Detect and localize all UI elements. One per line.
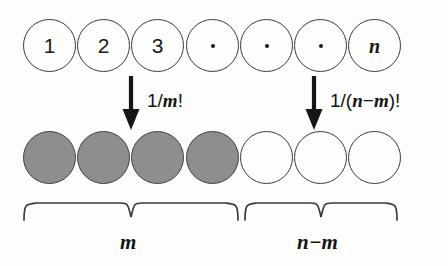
arrow-left-caption: 1/m!: [147, 91, 183, 110]
ball-label: 2: [98, 35, 110, 56]
ball-top-ellipsis-1: [186, 19, 239, 72]
brace-right: [243, 199, 399, 221]
caption-var-m: m: [374, 90, 389, 111]
ball-label: n: [369, 36, 380, 56]
brace-left: [22, 199, 240, 221]
ball-top-ellipsis-2: [240, 19, 293, 72]
ball-top-1: 1: [23, 19, 76, 72]
center-dot-icon: [265, 44, 269, 48]
brace-right-label: n−m: [297, 232, 338, 253]
ball-top-ellipsis-3: [294, 19, 347, 72]
center-dot-icon: [319, 44, 323, 48]
ball-bottom-2-selected: [77, 131, 130, 184]
ball-label: 3: [152, 35, 164, 56]
caption-lead: 1/: [147, 90, 163, 111]
ball-bottom-4-selected: [186, 131, 239, 184]
ball-bottom-7-unselected: [348, 131, 401, 184]
ball-top-3: 3: [131, 19, 184, 72]
ball-top-n: n: [348, 19, 401, 72]
figure-canvas: 1 2 3 n 1/m! 1/(n−m)!: [0, 0, 448, 266]
caption-var-m: m: [163, 90, 178, 111]
down-arrow-icon: [303, 76, 325, 130]
brace-left-label: m: [120, 232, 136, 253]
caption-tail: !: [178, 90, 183, 111]
ball-bottom-6-unselected: [294, 131, 347, 184]
arrow-right-caption: 1/(n−m)!: [330, 91, 400, 110]
ball-bottom-1-selected: [23, 131, 76, 184]
caption-tail: )!: [389, 90, 401, 111]
caption-operator: −: [363, 90, 374, 111]
ball-bottom-3-selected: [131, 131, 184, 184]
ball-label: 1: [44, 35, 56, 56]
center-dot-icon: [211, 44, 215, 48]
ball-bottom-5-unselected: [240, 131, 293, 184]
ball-top-2: 2: [77, 19, 130, 72]
caption-lead: 1/(: [330, 90, 352, 111]
caption-var-n: n: [352, 90, 363, 111]
down-arrow-icon: [120, 76, 142, 130]
